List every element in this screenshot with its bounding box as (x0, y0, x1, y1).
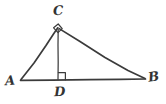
segment-ab (21, 79, 146, 80)
vertex-label-c: C (53, 4, 64, 18)
segment-ac (21, 28, 58, 80)
vertex-label-d: D (54, 85, 66, 98)
segment-cb (59, 29, 145, 79)
vertex-label-a: A (5, 74, 16, 88)
vertex-label-b: B (147, 69, 160, 83)
figure-canvas (0, 0, 166, 104)
geometry-figure: A B C D (0, 0, 166, 104)
right-angle-marker-d (58, 73, 65, 80)
